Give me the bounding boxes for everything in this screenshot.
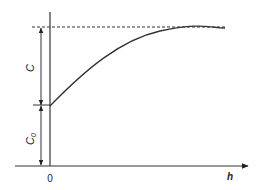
origin-label: 0 (47, 173, 53, 184)
x-axis-label: h (227, 171, 233, 182)
diagram-canvas: C C0 0 h (0, 0, 258, 190)
c0-label-group: C0 (24, 133, 37, 145)
c0-label: C0 (24, 133, 37, 145)
c-label: C (24, 64, 36, 72)
saturation-curve (50, 26, 225, 106)
